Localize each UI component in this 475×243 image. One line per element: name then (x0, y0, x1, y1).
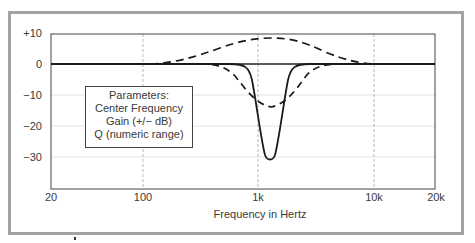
y-tick-label: −10 (12, 89, 42, 101)
x-tick-label: 100 (123, 191, 163, 203)
x-tick-label: 10k (354, 191, 394, 203)
annotation-q: Q (numeric range) (86, 128, 192, 141)
y-tick-label: −30 (12, 151, 42, 163)
eq-chart-plot (0, 0, 475, 243)
curve-medium-cut (200, 64, 340, 107)
x-axis-title: Frequency in Hertz (190, 208, 330, 220)
y-tick-label: −20 (12, 120, 42, 132)
annotation-center-frequency: Center Frequency (86, 102, 192, 115)
annotation-heading: Parameters: (86, 89, 192, 102)
annotation-gain: Gain (+/− dB) (86, 115, 192, 128)
y-tick-label: +10 (12, 27, 42, 39)
x-tick-label: 20 (31, 191, 71, 203)
x-tick-label: 1k (238, 191, 278, 203)
x-tick-label: 20k (416, 191, 456, 203)
y-tick-label: 0 (12, 58, 42, 70)
parameters-annotation: Parameters: Center Frequency Gain (+/− d… (85, 86, 193, 148)
stray-mark (74, 237, 76, 240)
curve-broad-boost (150, 38, 435, 64)
